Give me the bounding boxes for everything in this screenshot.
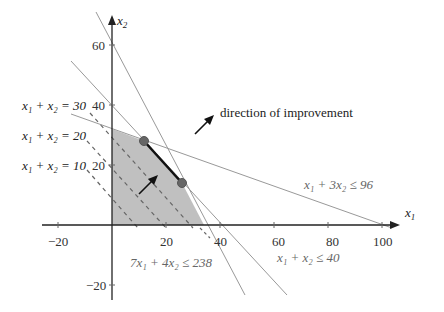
level-line-40-ext [200,228,210,238]
x-axis-label: x1 [404,205,415,222]
x-tick-label: 40 [214,234,227,249]
ticks [58,45,382,285]
x-tick-label: 100 [373,234,393,249]
y-tick-label: 20 [92,158,105,173]
level-label-10: x₁ + x₂ = 10 [21,158,87,173]
lp-diagram: −20 20 40 60 80 100 60 40 20 −20 x1 x2 d… [0,0,444,312]
x-tick-label: 20 [160,234,173,249]
constraint-label-7x1: 7x₁ + 4x₂ ≤ 238 [130,255,212,270]
direction-label: direction of improvement [220,105,353,120]
level-label-30: x₁ + x₂ = 30 [21,98,87,113]
level-label-20: x₁ + x₂ = 20 [21,128,87,143]
x-tick-label: 80 [326,234,339,249]
feasible-region [112,129,204,225]
y-axis-label: x2 [116,13,128,30]
constraint-label-x1x2: x₁ + x₂ ≤ 40 [276,250,340,265]
y-axis-arrow-icon [108,15,116,25]
x-tick-label: −20 [48,234,68,249]
y-tick-label: −20 [86,278,106,293]
direction-arrow-outer [195,120,209,134]
vertex-26-14 [178,179,187,188]
x-axis-arrow-icon [390,221,400,229]
y-tick-label: 60 [92,38,105,53]
x-tick-label: 60 [272,234,285,249]
vertex-12-28 [140,137,149,146]
constraint-label-x13x2: x₁ + 3x₂ ≤ 96 [303,177,373,192]
y-tick-label: 40 [92,98,105,113]
